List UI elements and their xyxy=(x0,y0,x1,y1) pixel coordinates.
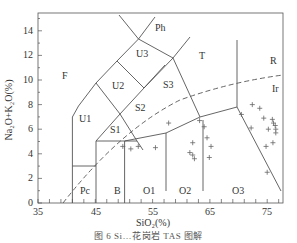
y-tick-8: 8 xyxy=(28,99,33,110)
plot-frame xyxy=(38,13,283,203)
field-label-s3: S3 xyxy=(163,79,174,90)
field-label-o3: O3 xyxy=(232,185,244,196)
y-tick-4: 4 xyxy=(28,148,33,159)
y-tick-12: 12 xyxy=(23,49,33,60)
x-tick-35: 35 xyxy=(33,206,43,217)
field-label-ir: Ir xyxy=(272,83,279,94)
tas-diagram: F Ph U3 U2 U1 S3 S2 S1 T R Ir Pc B O1 O2… xyxy=(0,0,297,243)
field-labels: F Ph U3 U2 U1 S3 S2 S1 T R Ir Pc B O1 O2… xyxy=(62,22,279,196)
axis-ticks xyxy=(38,19,279,204)
figure-caption: 图 6 Si…花岗岩 TAS 图解 xyxy=(0,229,297,242)
y-tick-0: 0 xyxy=(28,197,33,208)
y-tick-14: 14 xyxy=(23,25,33,36)
y-tick-6: 6 xyxy=(28,123,33,134)
field-label-u1: U1 xyxy=(79,113,91,124)
field-boundaries xyxy=(72,15,281,203)
x-tick-65: 65 xyxy=(205,206,215,217)
y-tick-10: 10 xyxy=(23,74,33,85)
field-label-ph: Ph xyxy=(155,22,166,33)
field-label-o2: O2 xyxy=(179,185,191,196)
x-tick-labels: 35 45 55 65 75 xyxy=(33,206,272,217)
field-label-t: T xyxy=(199,50,205,61)
x-tick-55: 55 xyxy=(148,206,158,217)
field-label-s1: S1 xyxy=(110,124,121,135)
field-label-pc: Pc xyxy=(80,185,91,196)
y-axis-title: Na₂O+K₂O(%) xyxy=(3,80,15,141)
field-label-b: B xyxy=(114,185,121,196)
field-label-o1: O1 xyxy=(143,185,155,196)
field-label-f: F xyxy=(62,70,68,81)
y-tick-labels: 0 2 4 6 8 10 12 14 xyxy=(23,25,33,208)
field-label-s2: S2 xyxy=(135,102,146,113)
x-tick-45: 45 xyxy=(91,206,101,217)
x-axis-title: SiO₂(%) xyxy=(136,217,170,229)
x-tick-75: 75 xyxy=(262,206,272,217)
field-label-u3: U3 xyxy=(136,48,148,59)
field-label-r: R xyxy=(270,55,277,66)
field-label-u2: U2 xyxy=(112,80,124,91)
y-tick-2: 2 xyxy=(28,172,33,183)
